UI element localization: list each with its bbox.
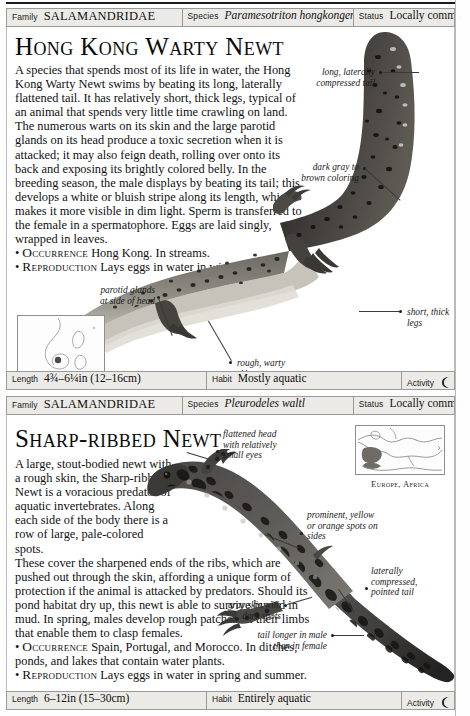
annotation-long-laterally-compressed-tail: long, laterally compressed tail [285,67,375,88]
length-cell: Length 6–12in (15–30cm) [7,692,207,709]
annotation-prominent-yellow-or-orange-spots-on-sides: prominent, yellow or orange spots on sid… [307,510,419,542]
species-cell: Species Paramesotriton hongkongensis [183,9,354,26]
habit-label: Habit [212,693,232,704]
reproduction-line: Reproduction Lays eggs in water in winte… [15,260,305,274]
species-label: Species [188,10,219,21]
annotation-dark-gray-to-brown-coloring: dark gray to brown coloring [257,162,359,183]
reproduction-keyword: Reproduction [22,667,97,682]
habit-cell: Habit Mostly aquatic [207,372,402,389]
locator-map-europe-africa [355,425,445,475]
family-label: Family [12,399,38,410]
habit-value: Entirely aquatic [238,692,311,704]
page-title: Sharp-ribbed Newt [15,425,221,453]
description-paragraph-wide: These cover the sharpened ends of the ri… [15,556,315,641]
occurrence-keyword: Occurrence [22,245,88,260]
family-cell: Family SALAMANDRIDAE [7,9,183,26]
entry-body: Sharp-ribbed Newt A large, stout-bodied … [6,415,455,691]
top-rule [6,2,455,4]
reproduction-line: Reproduction Lays eggs in water in sprin… [15,668,315,682]
entry-footer-bar: Length 4¾–6¼in (12–16cm) Habit Mostly aq… [6,371,455,390]
species-entry-hong-kong-warty-newt: Family SALAMANDRIDAE Species Paramesotri… [6,8,455,392]
species-value: Paramesotriton hongkongensis [225,9,354,21]
page-margin-rule [455,0,456,716]
occurrence-text: Hong Kong. In streams. [91,246,210,260]
occurrence-line: Occurrence Hong Kong. In streams. [15,246,305,260]
annotation-gray-skin-with-dark-spots: gray skin with dark spots [197,600,281,621]
status-label: Status [359,398,384,409]
status-cell: Status Locally common [354,9,454,26]
annotation-short-thick-legs: short, thick legs [407,307,467,328]
leader-line [334,635,364,636]
activity-label: Activity [407,377,434,388]
annotation-laterally-compressed-pointed-tail: laterally compressed, pointed tail [371,566,453,598]
species-value: Pleurodeles waltl [225,397,305,409]
leader-line [338,589,354,613]
habit-cell: Habit Entirely aquatic [207,692,402,709]
locator-map-hong-kong [17,315,105,373]
species-entry-sharp-ribbed-newt: Family SALAMANDRIDAE Species Pleurodeles… [6,396,455,712]
family-value: SALAMANDRIDAE [44,397,156,412]
status-cell: Status Locally common [354,397,454,414]
reproduction-text: Lays eggs in water in spring and summer. [100,668,306,682]
length-label: Length [12,693,38,704]
habit-label: Habit [212,373,232,384]
leader-line [364,168,400,201]
map-caption-europe-africa: Europe, Africa [371,479,429,489]
leader-line [359,311,399,312]
status-value: Locally common [389,397,454,409]
reproduction-keyword: Reproduction [22,259,97,274]
annotation-flattened-head-with-relatively-small-eyes: flattened head with relatively small eye… [223,429,319,461]
family-label: Family [12,11,38,22]
species-cell: Species Pleurodeles waltl [183,397,354,414]
status-value: Locally common [389,9,454,21]
description-paragraph: A species that spends most of its life i… [15,63,305,246]
description-paragraph-narrow: A large, stout-bodied newt with a rough … [15,457,175,556]
activity-label: Activity [407,697,434,708]
status-label: Status [359,10,384,21]
annotation-parotid-glands-at-side-of-head: parotid glands at side of head [65,285,155,306]
family-cell: Family SALAMANDRIDAE [7,397,183,414]
length-label: Length [12,373,38,384]
leader-line [383,72,419,73]
species-label: Species [188,398,219,409]
crescent-moon-icon [441,694,452,705]
length-value: 4¾–6¼in (12–16cm) [44,372,141,384]
crescent-moon-icon [441,374,452,385]
leader-dot [399,310,402,313]
length-value: 6–12in (15–30cm) [44,692,129,704]
page-title: Hong Kong Warty Newt [15,33,284,61]
leader-dot [300,532,303,535]
entry-header-bar: Family SALAMANDRIDAE Species Paramesotri… [6,8,455,27]
annotation-tail-longer-in-male-than-in-female: tail longer in male than in female [219,630,327,651]
leader-line [158,298,173,336]
entry-header-bar: Family SALAMANDRIDAE Species Pleurodeles… [6,396,455,415]
entry-footer-bar: Length 6–12in (15–30cm) Habit Entirely a… [6,691,455,710]
entry-body: Hong Kong Warty Newt A species that spen… [6,27,455,371]
leader-line [208,321,232,361]
activity-cell: Activity [402,372,454,389]
field-guide-page: Family SALAMANDRIDAE Species Paramesotri… [0,0,470,716]
length-cell: Length 4¾–6¼in (12–16cm) [7,372,207,389]
activity-cell: Activity [402,692,454,709]
leader-dot [379,71,382,74]
leader-dot [216,450,219,453]
occurrence-keyword: Occurrence [22,639,88,654]
leader-dot [229,361,232,364]
habit-value: Mostly aquatic [238,372,307,384]
reproduction-text: Lays eggs in water in winter. [100,260,243,274]
family-value: SALAMANDRIDAE [44,9,156,24]
leader-dot [365,587,368,590]
